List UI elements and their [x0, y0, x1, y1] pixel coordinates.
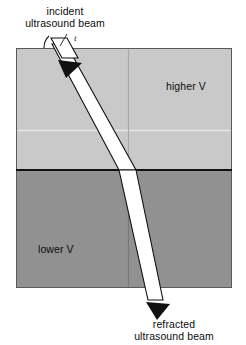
diagram-canvas	[0, 0, 246, 345]
refracted-caption-line-2: ultrasound beam	[104, 330, 244, 342]
incidence-angle-label: t	[74, 33, 77, 43]
refraction-diagram: incident ultrasound beam	[0, 0, 246, 345]
incidence-angle-arc	[44, 36, 49, 48]
refracted-caption-line-1: refracted	[104, 318, 244, 330]
lower-velocity-label: lower V	[38, 243, 74, 255]
higher-velocity-label: higher V	[166, 80, 206, 92]
refracted-beam-caption: refracted ultrasound beam	[104, 318, 244, 342]
